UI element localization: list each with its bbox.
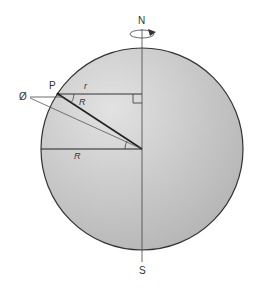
north-label: N <box>138 16 145 26</box>
radius-label-equator: R <box>74 152 81 161</box>
earth-diagram <box>0 0 267 295</box>
south-label: S <box>139 266 146 276</box>
point-p <box>57 93 60 96</box>
point-label: P <box>49 81 56 91</box>
radius-label-upper: R <box>79 98 86 107</box>
latitude-label: Ø <box>19 92 27 102</box>
small-radius-label: r <box>84 82 87 91</box>
